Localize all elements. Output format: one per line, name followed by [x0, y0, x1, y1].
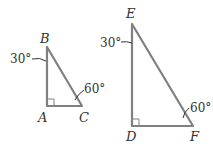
vertex-label-c: C	[79, 110, 89, 125]
triangle-abc: B A C 30° 60°	[10, 31, 105, 125]
angle-label-c: 60°	[84, 82, 105, 96]
vertex-label-f: F	[189, 129, 200, 144]
similar-triangles-diagram: B A C 30° 60° E D F 30° 60°	[0, 0, 213, 144]
triangle-def: E D F 30° 60°	[100, 6, 211, 144]
angle-b-pointer	[32, 58, 46, 61]
triangle-def-shape	[132, 24, 193, 126]
vertex-label-d: D	[125, 129, 137, 144]
vertex-label-a: A	[37, 110, 47, 125]
vertex-label-e: E	[125, 6, 136, 21]
angle-e-pointer	[121, 42, 132, 43]
angle-label-b: 30°	[10, 52, 31, 66]
angle-label-f: 60°	[190, 101, 211, 115]
vertex-label-b: B	[39, 31, 50, 46]
angle-label-e: 30°	[100, 36, 121, 50]
